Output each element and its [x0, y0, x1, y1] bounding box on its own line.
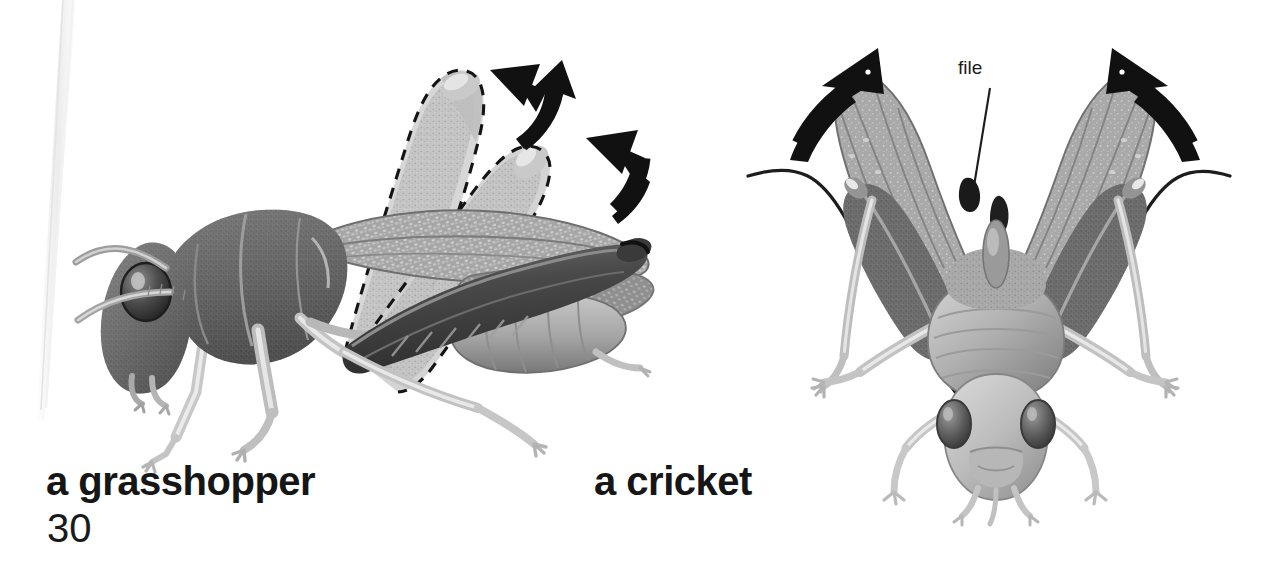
cricket-head	[937, 374, 1055, 525]
caption-grasshopper: a grasshopper	[46, 461, 315, 501]
grasshopper-head	[76, 242, 192, 414]
cricket-illustration	[748, 48, 1230, 525]
grasshopper-illustration	[76, 60, 655, 472]
figure-page: a grasshopper a cricket 30 file	[0, 0, 1266, 567]
file-label: file	[958, 58, 982, 77]
page-number: 30	[47, 508, 92, 548]
caption-cricket: a cricket	[594, 461, 752, 501]
page-edge-artifact	[36, 0, 76, 420]
grasshopper-motion-arrow-lower	[586, 130, 650, 224]
file-leader-line	[974, 88, 990, 186]
grasshopper-motion-arrow-upper	[490, 60, 576, 149]
